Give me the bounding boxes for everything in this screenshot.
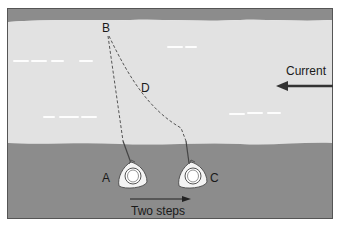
label-a: A bbox=[102, 172, 110, 184]
river-scene bbox=[0, 0, 346, 228]
river-water bbox=[8, 20, 332, 145]
label-c: C bbox=[210, 172, 219, 184]
label-two-steps: Two steps bbox=[131, 205, 185, 217]
top-bank bbox=[8, 9, 332, 22]
label-d: D bbox=[141, 82, 150, 94]
label-current: Current bbox=[286, 65, 326, 77]
label-b: B bbox=[102, 22, 110, 34]
